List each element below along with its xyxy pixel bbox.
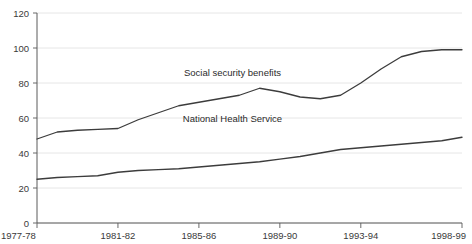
y-tick-label: 80 [18, 78, 29, 89]
y-tick-label: 40 [18, 148, 29, 159]
y-tick-label: 120 [13, 8, 29, 19]
x-axis-labels: 1977-781981-821985-861989-901993-941998-… [1, 230, 466, 241]
x-axis-ticks [37, 223, 462, 228]
y-axis-labels: 020406080100120 [13, 8, 29, 229]
x-tick-label: 1977-78 [1, 230, 36, 241]
y-tick-label: 20 [18, 183, 29, 194]
series-line [37, 50, 462, 139]
x-tick-label: 1998-99 [431, 230, 466, 241]
series-annotation-label: Social security benefits [184, 67, 281, 78]
y-tick-label: 0 [24, 218, 29, 229]
series-annotations: Social security benefitsNational Health … [183, 67, 282, 124]
x-tick-label: 1989-90 [262, 230, 297, 241]
y-tick-label: 60 [18, 113, 29, 124]
y-axis-ticks [33, 13, 37, 223]
x-tick-label: 1985-86 [181, 230, 216, 241]
line-chart: 020406080100120 1977-781981-821985-86198… [0, 0, 472, 244]
x-tick-label: 1993-94 [343, 230, 378, 241]
y-tick-label: 100 [13, 43, 29, 54]
x-tick-label: 1981-82 [101, 230, 136, 241]
series-annotation-label: National Health Service [183, 113, 282, 124]
series-line [37, 137, 462, 179]
chart-canvas: 020406080100120 1977-781981-821985-86198… [0, 0, 472, 244]
